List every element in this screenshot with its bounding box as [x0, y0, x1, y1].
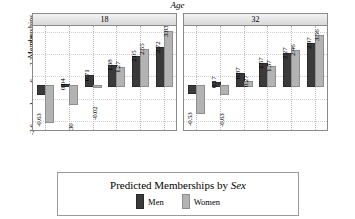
legend-swatch-women-icon [182, 194, 190, 209]
bar-group: 1.571.37 [259, 26, 275, 130]
gridline-horizontal [184, 121, 327, 122]
bar-value-label: 0.04 [59, 79, 67, 90]
y-axis-ticks: 3.82.2.6-1-2.6 [20, 13, 32, 129]
bar-group: 2.052.55 [132, 26, 148, 130]
gridline-horizontal [184, 76, 327, 77]
bar-group: 0.04-1.30 [61, 26, 77, 130]
bar-value-label: 2.46 [289, 45, 297, 56]
bar-value-label: -0.53 [186, 112, 194, 126]
gridline-horizontal [33, 54, 176, 55]
bar-group: 0.71-0.02 [85, 26, 101, 130]
chart-title: Age [0, 0, 355, 11]
bar-value-label: -0.02 [91, 106, 99, 120]
legend-title-plain: Predicted Memberships by [110, 179, 231, 191]
bar-value-label: 0.71 [83, 69, 91, 80]
bar-value-label: -1.30 [67, 123, 75, 131]
bar-value-label: 0.87 [234, 67, 242, 78]
gridline-horizontal [33, 32, 176, 33]
bar-group: 1.381.27 [108, 26, 124, 130]
panel-18: 18 -0.63-2.590.04-1.300.71-0.021.381.272… [32, 13, 177, 131]
bar-value-label: 2.72 [154, 41, 162, 52]
gridline-horizontal [184, 54, 327, 55]
chart-root: Age Memberships 3.82.2.6-1-2.6 18 -0.63-… [0, 0, 355, 219]
bar-group: 2.723.83 [156, 26, 172, 130]
bar-value-label: -0.63 [218, 114, 226, 128]
legend-label-men: Men [148, 197, 164, 207]
bar-group: 0.17-0.63 [212, 26, 228, 130]
gridline-horizontal [33, 99, 176, 100]
bar-group: -0.63-2.59 [37, 26, 53, 130]
legend-keys: Men Women [136, 194, 220, 209]
bar-women [45, 85, 54, 123]
panel-32: 32 -0.53-1.930.17-0.630.870.271.571.372.… [183, 13, 328, 131]
bar-women [93, 85, 102, 88]
bar-value-label: 0.17 [210, 77, 218, 88]
legend-key-men: Men [136, 194, 164, 209]
bar-value-label: 1.37 [265, 60, 273, 71]
bar-value-label: 3.56 [313, 29, 321, 40]
bar-women [220, 85, 229, 96]
panel-strip-label-32: 32 [183, 13, 328, 26]
legend-swatch-men-icon [136, 194, 144, 209]
bar-group: 2.272.46 [283, 26, 299, 130]
gridline-horizontal [184, 32, 327, 33]
bar-value-label: 2.97 [305, 38, 313, 49]
bar-value-label: 2.55 [138, 44, 146, 55]
bar-group: 0.870.27 [236, 26, 252, 130]
bar-group: 2.973.56 [307, 26, 323, 130]
panel-container: 18 -0.63-2.590.04-1.300.71-0.021.381.272… [32, 13, 328, 131]
plot-area-18: -0.63-2.590.04-1.300.71-0.021.381.272.05… [32, 26, 177, 131]
bar-group: -0.53-1.93 [188, 26, 204, 130]
bar-women [315, 35, 324, 87]
legend-key-women: Women [182, 194, 220, 209]
legend: Predicted Memberships by Sex Men Women [57, 172, 299, 216]
bar-value-label: 0.27 [242, 75, 250, 86]
legend-title-italic: Sex [231, 179, 246, 191]
legend-title: Predicted Memberships by Sex [110, 179, 246, 191]
bar-women [164, 31, 173, 87]
bar-value-label: 1.27 [114, 61, 122, 72]
bar-women [69, 85, 78, 105]
panel-strip-label-18: 18 [32, 13, 177, 26]
gridline-horizontal [184, 99, 327, 100]
gridline-horizontal [33, 76, 176, 77]
plot-area-32: -0.53-1.930.17-0.630.870.271.571.372.272… [183, 26, 328, 131]
bar-women [196, 85, 205, 114]
bar-value-label: -0.63 [35, 114, 43, 128]
gridline-horizontal [33, 121, 176, 122]
bar-value-label: 3.83 [162, 26, 170, 37]
legend-label-women: Women [194, 197, 220, 207]
